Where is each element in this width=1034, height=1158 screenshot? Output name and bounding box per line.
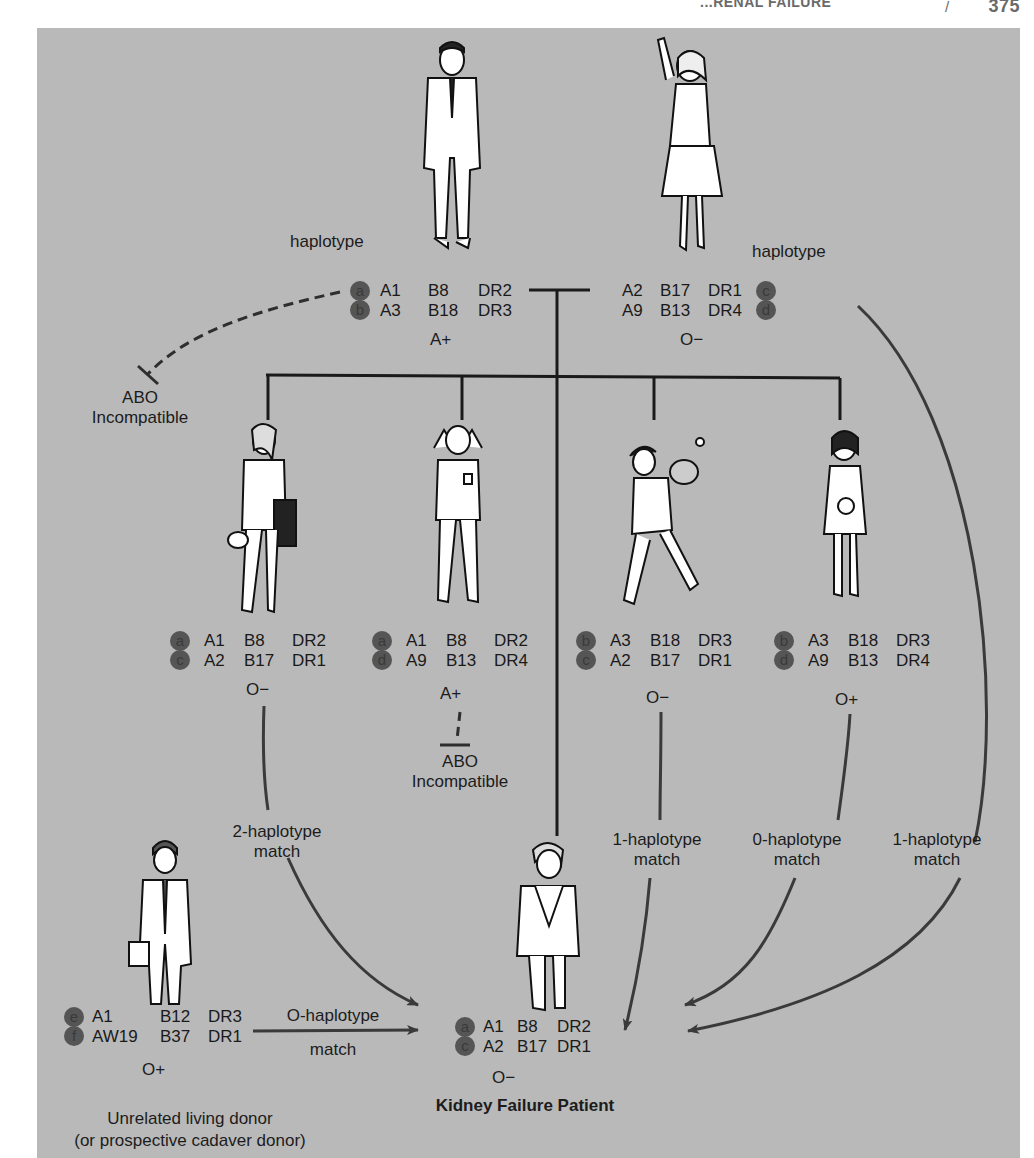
child2-genotype: a A1 B8 DR2 d A9 B13 DR4 bbox=[372, 631, 528, 671]
haplotype-badge: c bbox=[756, 281, 776, 301]
match-label-child1: 2-haplotype match bbox=[212, 822, 342, 862]
child1-figure bbox=[222, 420, 302, 620]
child1-genotype: a A1 B8 DR2 c A2 B17 DR1 bbox=[170, 631, 326, 671]
mother-figure bbox=[648, 36, 738, 258]
haplotype-badge: a bbox=[455, 1017, 475, 1037]
match-label-child3: 1-haplotype match bbox=[592, 830, 722, 870]
child4-genotype: b A3 B18 DR3 d A9 B13 DR4 bbox=[774, 631, 930, 671]
child3-genotype: b A3 B18 DR3 c A2 B17 DR1 bbox=[576, 631, 732, 671]
haplotype-badge: b bbox=[576, 631, 596, 651]
patient-caption: Kidney Failure Patient bbox=[400, 1096, 650, 1116]
unrelated-donor-figure bbox=[125, 834, 205, 1014]
child3-blood-type: O− bbox=[646, 688, 669, 708]
child3-figure bbox=[610, 430, 710, 620]
patient-genotype: a A1 B8 DR2 c A2 B17 DR1 bbox=[455, 1017, 591, 1057]
haplotype-badge: b bbox=[774, 631, 794, 651]
mother-genotype: A2 B17 DR1 c A9 B13 DR4 d bbox=[622, 281, 776, 321]
abo-incompatible-child: ABO Incompatible bbox=[380, 752, 540, 792]
mother-blood-type: O− bbox=[680, 330, 703, 350]
marriage-line bbox=[266, 290, 840, 836]
match-label-unrelated-top: O-haplotype bbox=[258, 1006, 408, 1026]
haplotype-badge: c bbox=[576, 650, 596, 670]
match-label-child4: 0-haplotype match bbox=[732, 830, 862, 870]
patient-blood-type: O− bbox=[492, 1068, 515, 1088]
child4-figure bbox=[810, 424, 880, 614]
abo-incompatible-parent: ABO Incompatible bbox=[60, 388, 220, 428]
haplotype-badge: a bbox=[170, 631, 190, 651]
unrelated-blood-type: O+ bbox=[142, 1060, 165, 1080]
haplotype-badge: a bbox=[372, 631, 392, 651]
haplotype-badge: c bbox=[455, 1036, 475, 1056]
child4-blood-type: O+ bbox=[835, 690, 858, 710]
unrelated-caption: Unrelated living donor (or prospective c… bbox=[40, 1108, 340, 1152]
haplotype-badge: c bbox=[170, 650, 190, 670]
child1-blood-type: O− bbox=[246, 680, 269, 700]
haplotype-badge: e bbox=[64, 1007, 84, 1027]
haplotype-badge: d bbox=[774, 650, 794, 670]
haplotype-label-right: haplotype bbox=[752, 242, 826, 262]
haplotype-label-left: haplotype bbox=[290, 232, 364, 252]
patient-figure bbox=[505, 836, 595, 1016]
haplotype-badge: d bbox=[372, 650, 392, 670]
haplotype-badge: d bbox=[756, 300, 776, 320]
child2-blood-type: A+ bbox=[440, 684, 461, 704]
haplotype-badge: f bbox=[64, 1026, 84, 1046]
match-label-mother: 1-haplotype match bbox=[872, 830, 1002, 870]
father-blood-type: A+ bbox=[430, 330, 451, 350]
father-figure bbox=[412, 38, 492, 258]
child2-figure bbox=[418, 420, 498, 620]
father-genotype: a A1 B8 DR2 b A3 B18 DR3 bbox=[350, 281, 512, 321]
haplotype-badge: a bbox=[350, 281, 370, 301]
unrelated-genotype: e A1 B12 DR3 f AW19 B37 DR1 bbox=[64, 1007, 242, 1047]
match-label-unrelated-bottom: match bbox=[258, 1040, 408, 1060]
haplotype-badge: b bbox=[350, 300, 370, 320]
